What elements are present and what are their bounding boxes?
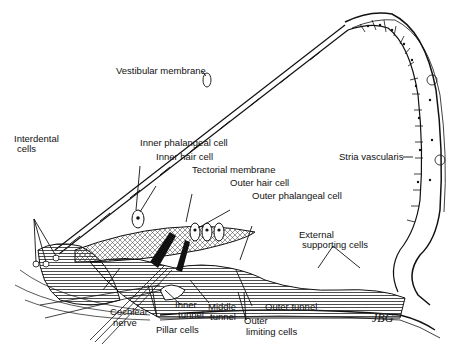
label-pillar-cells: Pillar cells	[156, 325, 199, 335]
label-vestibular-membrane: Vestibular membrane	[116, 66, 206, 76]
label-interdental-cells-2: cells	[17, 144, 36, 154]
label-stria-vascularis: Stria vascularis	[339, 152, 403, 162]
cochlear-duct-diagram: JBG Vestibular membrane Interdental cell…	[0, 0, 470, 350]
label-tectorial-membrane: Tectorial membrane	[192, 165, 275, 175]
label-inner-tunnel-2: tunnel	[178, 310, 204, 320]
label-middle-tunnel-2: tunnel	[210, 312, 236, 322]
label-cochlear-nerve: Cochlear	[110, 307, 148, 317]
label-inner-hair-cell: Inner hair cell	[156, 152, 213, 162]
label-outer-phalangeal-cell: Outer phalangeal cell	[252, 191, 342, 201]
label-cochlear-nerve-2: nerve	[113, 318, 137, 328]
cochlear-illustration: JBG	[0, 0, 470, 350]
artist-signature: JBG	[372, 311, 394, 325]
label-outer-limiting-cells-2: limiting cells	[246, 327, 297, 337]
label-external-supporting-cells-2: supporting cells	[302, 240, 368, 250]
label-inner-phalangeal-cell: Inner phalangeal cell	[140, 138, 228, 148]
label-outer-tunnel: Outer tunnel	[265, 302, 317, 312]
organ-of-corti-shape	[90, 210, 405, 318]
label-outer-limiting-cells: Outer	[244, 316, 268, 326]
label-outer-hair-cell: Outer hair cell	[230, 178, 289, 188]
